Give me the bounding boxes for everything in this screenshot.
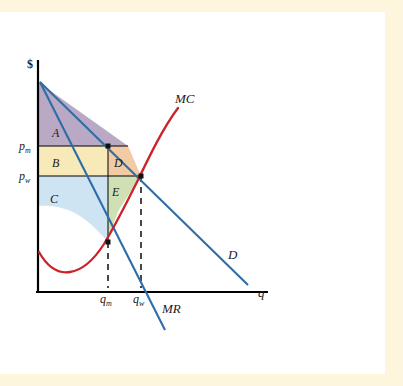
y-tick-pm-sub: m [25,146,31,155]
region-c-label: C [50,193,58,205]
y-tick-pw-sub: w [25,176,30,185]
y-axis-label: $ [27,58,33,70]
mr-mc-point-marker [106,240,111,245]
competitive-point-marker [139,174,144,179]
region-c-fill [38,176,108,242]
demand-label: D [228,248,237,261]
x-tick-qw: qw [133,293,144,308]
y-tick-pw: pw [19,170,30,185]
x-tick-qw-sub: w [139,299,144,308]
region-e-label: E [112,186,119,198]
x-axis-label: q [258,286,265,299]
x-tick-qm-sub: m [106,299,112,308]
region-a-label: A [52,127,59,139]
x-tick-qm: qm [100,293,112,308]
region-d-fill [108,146,141,176]
region-d-label: D [114,157,123,169]
y-tick-pm: pm [19,140,31,155]
monopoly-welfare-diagram [0,0,403,386]
marginal-revenue-label: MR [162,302,181,315]
marginal-cost-label: MC [175,92,195,105]
region-b-label: B [52,157,59,169]
monopoly-point-marker [106,144,111,149]
region-b-fill [38,146,108,176]
